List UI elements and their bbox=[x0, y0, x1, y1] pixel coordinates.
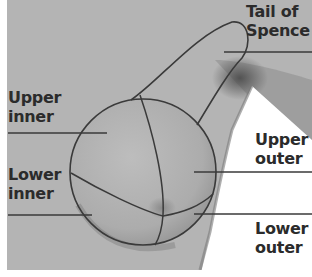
label-upper-outer: Upper outer bbox=[255, 130, 308, 168]
label-tail-of-spence: Tail of Spence bbox=[246, 2, 310, 40]
bottom-margin bbox=[0, 270, 312, 277]
label-lower-inner: Lower inner bbox=[8, 165, 61, 203]
label-tail-of-spence-line2: Spence bbox=[246, 21, 310, 40]
label-upper-inner-line1: Upper bbox=[8, 88, 61, 107]
label-upper-outer-line2: outer bbox=[255, 149, 308, 168]
label-lower-outer-line1: Lower bbox=[255, 219, 308, 238]
label-upper-inner-line2: inner bbox=[8, 107, 61, 126]
label-upper-outer-line1: Upper bbox=[255, 130, 308, 149]
label-tail-of-spence-line1: Tail of bbox=[246, 2, 310, 21]
label-lower-outer-line2: outer bbox=[255, 238, 308, 257]
label-lower-inner-line1: Lower bbox=[8, 165, 61, 184]
label-upper-inner: Upper inner bbox=[8, 88, 61, 126]
label-lower-inner-line2: inner bbox=[8, 184, 61, 203]
label-lower-outer: Lower outer bbox=[255, 219, 308, 257]
